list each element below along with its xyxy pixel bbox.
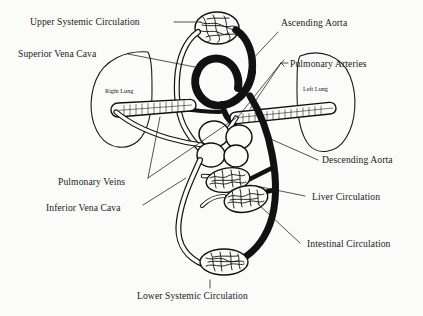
label-liver-circulation: Liver Circulation: [312, 191, 380, 202]
aortic-arch: [195, 58, 252, 105]
label-pulmonary-arteries: Pulmonary Arteries: [290, 58, 367, 69]
ascending-aorta-vessel: [236, 30, 252, 72]
label-descending-aorta: Descending Aorta: [322, 154, 393, 165]
label-superior-vena-cava: Superior Vena Cava: [18, 48, 97, 59]
hepatic-artery-branch: [248, 168, 272, 180]
leader-ascending-aorta: [250, 32, 278, 62]
label-upper-systemic-circulation: Upper Systemic Circulation: [30, 16, 140, 27]
label-right-lung: Right Lung: [105, 87, 133, 94]
leader-pulmonary-arteries-arrow: [281, 60, 288, 66]
label-inferior-vena-cava: Inferior Vena Cava: [46, 202, 121, 213]
leader-inferior-vena-cava: [143, 178, 186, 205]
label-intestinal-circulation: Intestinal Circulation: [307, 238, 391, 249]
upper-systemic-capillary-bed: [195, 12, 239, 44]
label-left-lung: Left Lung: [303, 85, 328, 92]
label-pulmonary-veins: Pulmonary Veins: [58, 176, 125, 187]
circulation-diagram: Upper Systemic Circulation Superior Vena…: [0, 0, 423, 316]
label-ascending-aorta: Ascending Aorta: [281, 17, 348, 28]
leader-pulmonary-veins-1: [148, 117, 160, 178]
heart-chambers: [197, 121, 252, 167]
right-lung-outline: [91, 52, 152, 147]
lower-systemic-capillary-bed: [200, 249, 248, 275]
label-lower-systemic-circulation: Lower Systemic Circulation: [137, 290, 248, 301]
